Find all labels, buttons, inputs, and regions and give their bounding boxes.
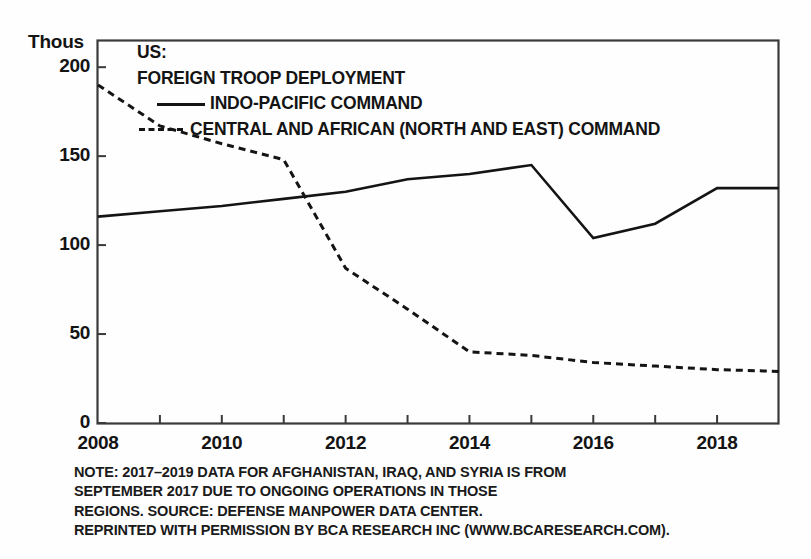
y-axis-ticks — [98, 67, 106, 423]
x-axis-tick-label: 2016 — [548, 432, 638, 454]
y-axis-tick-label: 200 — [20, 55, 90, 77]
legend-item-indo-pacific: INDO-PACIFIC COMMAND — [137, 91, 660, 117]
series-indo-pacific-line — [98, 165, 779, 238]
footnote-line: REPRINTED WITH PERMISSION BY BCA RESEARC… — [74, 521, 670, 540]
y-axis-tick-label: 100 — [20, 233, 90, 255]
chart-legend: US: FOREIGN TROOP DEPLOYMENT INDO-PACIFI… — [137, 40, 660, 142]
x-axis-tick-label: 2014 — [424, 432, 514, 454]
chart-figure: Thous 050100150200 200820102012201420162… — [0, 0, 811, 559]
y-axis-tick-label: 50 — [20, 322, 90, 344]
x-axis-tick-label: 2018 — [672, 432, 762, 454]
footnote-line: REGIONS. SOURCE: DEFENSE MANPOWER DATA C… — [74, 502, 670, 521]
legend-item-indo-pacific-label: INDO-PACIFIC COMMAND — [210, 91, 422, 117]
legend-title-line-1-text: US: — [137, 40, 167, 66]
x-axis-ticks — [160, 415, 717, 423]
legend-dashed-line-icon — [137, 123, 185, 135]
x-axis-tick-label: 2008 — [53, 432, 143, 454]
legend-title-line-2-text: FOREIGN TROOP DEPLOYMENT — [137, 66, 405, 92]
y-axis-tick-label: 0 — [20, 411, 90, 433]
x-axis-tick-label: 2010 — [177, 432, 267, 454]
chart-footnote: NOTE: 2017–2019 DATA FOR AFGHANISTAN, IR… — [74, 463, 670, 541]
y-axis-tick-label: 150 — [20, 144, 90, 166]
legend-title-line-2: FOREIGN TROOP DEPLOYMENT — [137, 66, 660, 92]
legend-item-central-african-label: CENTRAL AND AFRICAN (NORTH AND EAST) COM… — [190, 117, 660, 143]
footnote-line: SEPTEMBER 2017 DUE TO ONGOING OPERATIONS… — [74, 482, 670, 501]
legend-title-line-1: US: — [137, 40, 660, 66]
legend-item-central-african: CENTRAL AND AFRICAN (NORTH AND EAST) COM… — [137, 117, 660, 143]
footnote-line: NOTE: 2017–2019 DATA FOR AFGHANISTAN, IR… — [74, 463, 670, 482]
x-axis-tick-label: 2012 — [301, 432, 391, 454]
legend-solid-line-icon — [157, 98, 205, 110]
